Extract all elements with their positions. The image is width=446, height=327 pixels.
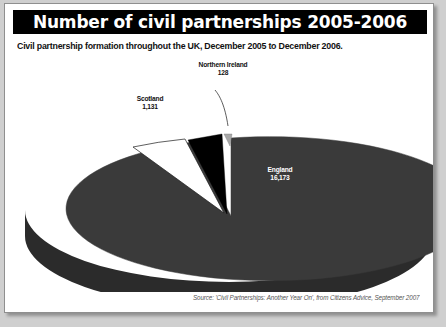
chart-subtitle: Civil partnership formation throughout t… — [17, 40, 343, 51]
page-title: Number of civil partnerships 2005-2006 — [33, 12, 407, 32]
label-scotland: Scotland 1,131 — [119, 95, 182, 112]
source-citation: Source: 'Civil Partnerships: Another Yea… — [192, 294, 419, 301]
pie-chart-svg — [5, 54, 434, 292]
label-wales: Wales 627 — [174, 91, 226, 108]
title-bar: Number of civil partnerships 2005-2006 — [13, 10, 427, 34]
label-england: England 16,173 — [240, 166, 321, 183]
label-northern-ireland: Northern Ireland 128 — [184, 61, 261, 78]
chart-card: Number of civil partnerships 2005-2006 C… — [4, 3, 434, 313]
label-wales-value: 627 — [174, 99, 226, 107]
england-slice-top — [66, 137, 434, 281]
label-northern-ireland-value: 128 — [184, 69, 261, 77]
pie-chart: Northern Ireland 128 Scotland 1,131 Wale… — [5, 54, 434, 292]
label-scotland-value: 1,131 — [119, 103, 182, 111]
label-england-value: 16,173 — [240, 174, 321, 182]
